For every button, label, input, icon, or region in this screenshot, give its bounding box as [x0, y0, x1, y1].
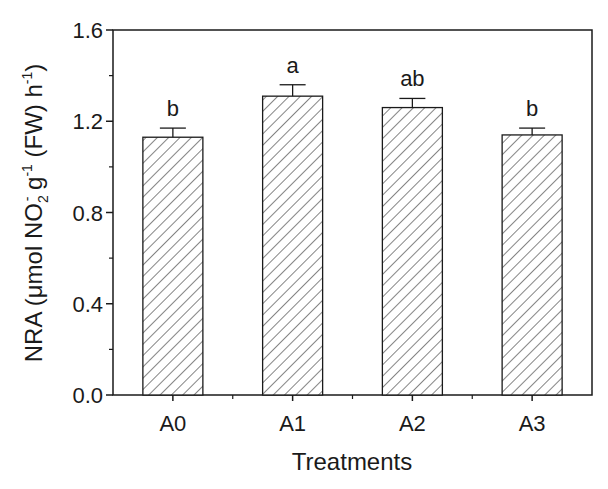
bar-rect	[502, 135, 562, 395]
bar-a1: a	[263, 53, 323, 395]
bar-a3: b	[502, 96, 562, 395]
y-tick-label: 0.0	[72, 383, 103, 408]
bar-chart: baabb 0.00.40.81.21.6 A0A1A2A3 Treatment…	[0, 0, 608, 489]
y-axis: 0.00.40.81.21.6	[72, 18, 113, 408]
x-tick-label: A2	[399, 411, 426, 436]
y-tick-label: 0.8	[72, 201, 103, 226]
x-tick-label: A1	[279, 411, 306, 436]
x-axis-label: Treatments	[292, 448, 412, 475]
y-tick-label: 1.2	[72, 109, 103, 134]
significance-letter: ab	[400, 66, 424, 91]
x-tick-label: A0	[159, 411, 186, 436]
bar-rect	[143, 137, 203, 395]
bar-a2: ab	[382, 66, 442, 395]
x-tick-label: A3	[519, 411, 546, 436]
y-tick-label: 1.6	[72, 18, 103, 43]
y-tick-label: 0.4	[72, 292, 103, 317]
y-axis-label: NRA (μmol NO2- g-1 (FW) h-1)	[19, 64, 51, 363]
bar-rect	[382, 108, 442, 395]
bars: baabb	[143, 53, 562, 395]
bar-rect	[263, 96, 323, 395]
significance-letter: a	[287, 53, 300, 78]
bar-a0: b	[143, 96, 203, 395]
x-axis: A0A1A2A3	[159, 395, 545, 436]
significance-letter: b	[167, 96, 179, 121]
significance-letter: b	[526, 96, 538, 121]
